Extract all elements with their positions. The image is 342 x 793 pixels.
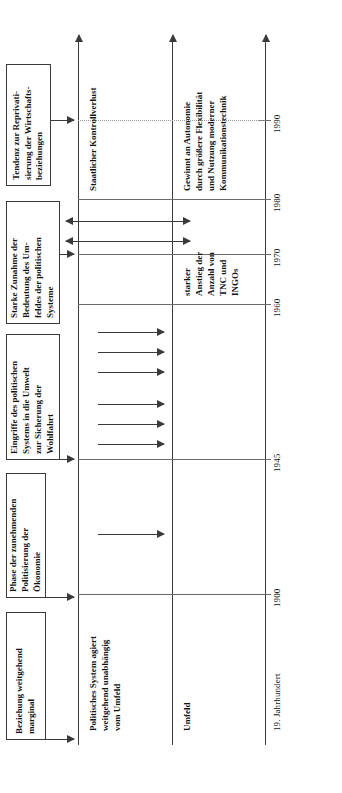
ticklabel-1990: 1990 [272, 115, 282, 133]
axis-political-system [78, 35, 79, 745]
axis-time [265, 35, 266, 745]
lane-label-state-control: Staatlicher Kontrollverlust [88, 88, 100, 191]
connector-zunahme [60, 254, 74, 255]
phase-box-eingriffe-label: Eingriffe des politischen Systems in die… [9, 361, 57, 454]
timetick-1960 [259, 304, 271, 305]
ticklabel-1945: 1945 [272, 454, 282, 472]
flow-arrow-double-a [66, 241, 190, 242]
timeline-figure: 19. Jahrhundert 1900 1945 1960 1970 1980… [0, 0, 342, 793]
era-line-1980 [78, 199, 265, 200]
ticklabel-1960: 1960 [272, 299, 282, 317]
connector-politisierung [46, 597, 74, 598]
phase-box-zunahme: Starke Zunahme der Bedeutung des Um- fel… [6, 201, 60, 324]
axis-environment [172, 35, 173, 745]
connector-marginal [46, 739, 74, 740]
era-line-1945 [78, 459, 265, 460]
era-line-1960 [78, 304, 265, 305]
ticklabel-1900: 1900 [272, 589, 282, 607]
era-line-1900 [78, 594, 265, 595]
ticklabel-1980: 1980 [272, 194, 282, 212]
flow-arrow-double-b [66, 221, 190, 222]
timetick-1970 [259, 254, 271, 255]
ticklabel-19-jahrhundert: 19. Jahrhundert [272, 674, 282, 732]
phase-box-reprivatisierung: Tendenz zur Reprivati- sierung der Wirts… [6, 64, 51, 186]
timetick-1945 [259, 459, 271, 460]
phase-box-zunahme-label: Starke Zunahme der Bedeutung des Um- fel… [9, 237, 57, 318]
phase-box-politisierung: Phase der zunehmenden Politisierung der … [6, 473, 46, 598]
timetick-1900 [259, 594, 271, 595]
flow-arrow-1945-d [98, 372, 164, 373]
lane-label-autonomy: Gewinnt an Autonomie durch größere Flexi… [182, 92, 230, 191]
flow-arrow-1945-f [98, 332, 164, 333]
lane-label-tnc-ingos: starker Anstieg der Anzahl von TNC und I… [182, 252, 241, 296]
flow-arrow-1945-e [98, 352, 164, 353]
flow-arrow-1945-b [98, 424, 164, 425]
connector-reprivatisierung [51, 120, 74, 121]
lane-label-political-system: Politisches System agiert weitgehend una… [88, 636, 124, 731]
phase-box-marginal: Beziehung weitgehend marginal [6, 612, 46, 740]
lane-label-environment: Umfeld [182, 703, 194, 732]
flow-arrow-1900-a [98, 534, 164, 535]
timetick-1980 [259, 199, 271, 200]
connector-eingriffe [60, 459, 74, 460]
flow-arrow-1945-a [98, 444, 164, 445]
phase-box-reprivatisierung-label: Tendenz zur Reprivati- sierung der Wirts… [11, 87, 47, 181]
phase-box-eingriffe: Eingriffe des politischen Systems in die… [6, 334, 60, 460]
flow-arrow-1945-c [98, 404, 164, 405]
ticklabel-1970: 1970 [272, 249, 282, 267]
dotted-1990-crossline [78, 120, 265, 121]
phase-box-marginal-label: Beziehung weitgehend marginal [14, 648, 38, 734]
phase-box-politisierung-label: Phase der zunehmenden Politisierung der … [8, 499, 44, 592]
